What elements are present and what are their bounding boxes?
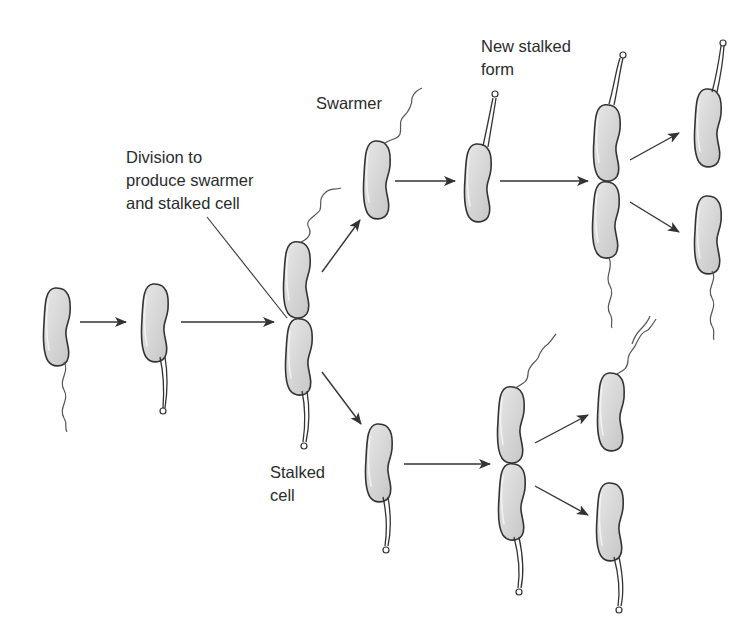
stalk [712,46,724,92]
flagellum [608,258,612,328]
arrow [630,202,679,232]
cell-stalked-released [365,424,392,553]
cell-lower-swarmer-daughter [597,319,656,451]
holdfast [720,40,726,46]
stalk [614,557,623,606]
holdfast [620,52,626,58]
cell-lower-stalked-daughter [596,483,623,613]
stalk [609,58,623,105]
holdfast [492,91,498,97]
holdfast [616,607,622,613]
arrow [322,220,360,272]
flagellum [62,362,67,432]
stalk [514,537,523,588]
cell-dividing-1 [283,188,341,449]
flagellum [301,188,341,242]
holdfast [516,589,522,595]
arrow [535,486,588,515]
cell-dividing-lower [497,334,556,595]
arrow [535,415,588,443]
cell-new-stalked [464,91,498,222]
cell-dividing-upper [592,52,626,328]
division-leader-line [207,217,287,318]
arrow [630,133,679,160]
cell-upper-swarmer-daughter [694,196,721,340]
stalk [302,391,309,442]
stalk [383,497,390,546]
holdfast [383,547,389,553]
flagellum [515,334,556,388]
division-label: Division to produce swarmer and stalked … [126,146,253,215]
cell-swarmer-start [43,288,70,432]
holdfast [160,408,166,414]
arrow [322,372,361,424]
swarmer-label: Swarmer [316,92,382,115]
flagellum [385,88,422,143]
new-stalked-form-label: New stalked form [481,35,571,81]
stalk [483,98,496,147]
stalked-cell-label: Stalked cell [270,461,325,507]
holdfast [301,443,307,449]
flagellum [710,271,714,340]
cell-upper-stalked-daughter [694,40,726,167]
flagellum [617,319,656,374]
cell-stalked-1 [141,284,168,414]
stalk [160,357,167,408]
